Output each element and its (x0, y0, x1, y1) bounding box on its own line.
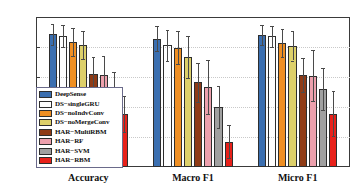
error-bar-cap-lower (217, 128, 221, 129)
legend-item-label: HAR−RBM (55, 157, 90, 164)
error-bar (272, 26, 273, 47)
error-bar (93, 57, 94, 91)
error-bar-cap-upper (260, 25, 264, 26)
legend-swatch-icon (39, 148, 52, 155)
error-bar (313, 50, 314, 101)
error-bar-cap-lower (51, 45, 55, 46)
bar (288, 46, 296, 167)
error-bar-cap-upper (332, 91, 336, 92)
error-bar-cap-upper (206, 60, 210, 61)
legend-swatch-icon (39, 157, 52, 164)
error-bar-cap-upper (155, 26, 159, 27)
error-bar (208, 60, 209, 114)
error-bar (219, 86, 220, 128)
legend-item[interactable]: HAR−RF (39, 137, 120, 146)
error-bar (53, 24, 54, 45)
legend-item[interactable]: DS−singleGRU (39, 99, 120, 108)
legend-swatch-icon (39, 129, 52, 136)
error-bar-cap-upper (61, 25, 65, 26)
error-bar (198, 63, 199, 101)
error-bar-cap-upper (291, 31, 295, 32)
error-bar-cap-upper (176, 31, 180, 32)
legend-item-label: HAR−SVM (55, 148, 89, 155)
error-bar-cap-lower (301, 92, 305, 93)
error-bar-cap-lower (270, 47, 274, 48)
error-bar-cap-lower (291, 61, 295, 62)
error-bar-cap-lower (227, 158, 231, 159)
error-bar-cap-lower (155, 51, 159, 52)
legend-item-label: HAR−MultiRBM (55, 129, 106, 136)
error-bar-cap-upper (217, 86, 221, 87)
error-bar (282, 29, 283, 57)
error-bar (229, 125, 230, 158)
legend-item[interactable]: DS−noMergeConv (39, 118, 120, 127)
bar-group (141, 17, 246, 167)
error-bar-cap-lower (61, 47, 65, 48)
error-bar-cap-lower (166, 61, 170, 62)
bar (258, 35, 266, 167)
error-bar (63, 25, 64, 47)
bar-group (245, 17, 350, 167)
error-bar (157, 26, 158, 51)
error-bar (83, 31, 84, 60)
legend-item[interactable]: DS−noIndvConv (39, 109, 120, 118)
bar-chart-figure: 0.50.60.70.80.91 AccuracyMacro F1Micro F… (0, 0, 360, 192)
legend-item[interactable]: HAR−MultiRBM (39, 128, 120, 137)
error-bar-cap-upper (301, 58, 305, 59)
error-bar-cap-upper (71, 28, 75, 29)
x-tick-label: Accuracy (68, 172, 109, 183)
error-bar-cap-lower (281, 57, 285, 58)
error-bar-cap-upper (321, 68, 325, 69)
legend-item-label: DS−singleGRU (55, 101, 99, 108)
error-bar-cap-upper (81, 31, 85, 32)
error-bar-cap-upper (270, 26, 274, 27)
error-bar-cap-lower (260, 45, 264, 46)
error-bar-cap-upper (102, 56, 106, 57)
error-bar (323, 68, 324, 110)
error-bar (178, 31, 179, 64)
x-tick-label: Macro F1 (172, 172, 214, 183)
bar (268, 36, 276, 167)
error-bar-cap-lower (332, 136, 336, 137)
legend-item-label: DS−noIndvConv (55, 110, 104, 117)
error-bar (124, 96, 125, 132)
legend-item[interactable]: HAR−SVM (39, 146, 120, 155)
legend-item-label: HAR−RF (55, 138, 83, 145)
error-bar (333, 91, 334, 136)
bar (174, 48, 182, 167)
legend-swatch-icon (39, 91, 52, 98)
error-bar (262, 25, 263, 45)
bar (278, 43, 286, 167)
error-bar (167, 30, 168, 61)
legend-item-label: DS−noMergeConv (55, 119, 109, 126)
legend-swatch-icon (39, 110, 52, 117)
error-bar-cap-upper (186, 36, 190, 37)
legend-swatch-icon (39, 138, 52, 145)
legend-item[interactable]: HAR−RBM (39, 156, 120, 165)
error-bar-cap-upper (166, 30, 170, 31)
error-bar-cap-upper (311, 50, 315, 51)
error-bar-cap-lower (81, 59, 85, 60)
error-bar-cap-lower (196, 102, 200, 103)
error-bar (188, 36, 189, 78)
error-bar (303, 58, 304, 92)
error-bar (73, 28, 74, 56)
legend-item-label: DeepSense (55, 91, 86, 98)
error-bar-cap-lower (206, 114, 210, 115)
legend-swatch-icon (39, 101, 52, 108)
error-bar-cap-lower (176, 64, 180, 65)
legend-swatch-icon (39, 119, 52, 126)
error-bar-cap-upper (196, 63, 200, 64)
error-bar-cap-upper (112, 72, 116, 73)
error-bar-cap-lower (186, 78, 190, 79)
error-bar-cap-upper (51, 24, 55, 25)
legend: DeepSenseDS−singleGRUDS−noIndvConvDS−noM… (36, 87, 123, 168)
error-bar-cap-lower (311, 101, 315, 102)
legend-item[interactable]: DeepSense (39, 90, 120, 99)
error-bar (293, 31, 294, 60)
bar (153, 39, 161, 167)
x-tick-label: Micro F1 (278, 172, 318, 183)
bar (163, 45, 171, 167)
error-bar-cap-lower (71, 56, 75, 57)
error-bar-cap-upper (281, 29, 285, 30)
